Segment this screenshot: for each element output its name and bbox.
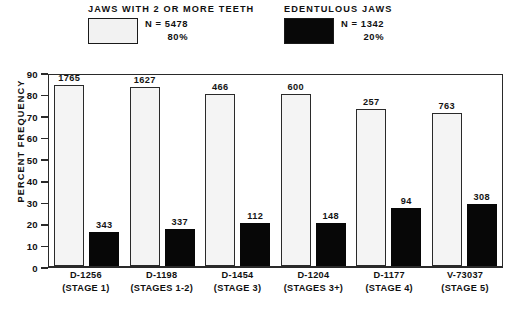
- y-axis-tick-mark: [41, 181, 48, 183]
- x-axis-stage-label: (STAGES 1-2): [124, 283, 200, 293]
- x-axis-stage-label: (STAGE 4): [351, 283, 427, 293]
- bar-value-label: 148: [322, 211, 339, 221]
- bar-group: 466112: [200, 75, 276, 266]
- bar-group: 25794: [351, 75, 427, 266]
- x-axis-stage-label: (STAGE 5): [427, 283, 503, 293]
- plot-area: 1765343162733746611260014825794763308: [48, 74, 503, 268]
- y-axis-tick-label: 90: [27, 68, 38, 79]
- y-axis-tick-mark: [41, 159, 48, 161]
- bar-value-label: 94: [401, 196, 412, 206]
- bar-value-label: 112: [247, 211, 263, 221]
- bar-value-label: 600: [287, 82, 304, 92]
- y-axis-tick-mark: [41, 246, 48, 248]
- x-axis-group-label: D-1198(STAGES 1-2): [124, 270, 200, 293]
- y-axis-tick-mark: [41, 116, 48, 118]
- x-axis-specimen-code: D-1198: [124, 270, 200, 280]
- bar-jaws-with-teeth[interactable]: 466: [205, 94, 235, 266]
- bars-layer: 1765343162733746611260014825794763308: [49, 75, 502, 266]
- bar-value-label: 1765: [58, 73, 80, 83]
- y-axis-tick-mark: [41, 138, 48, 140]
- y-axis-tick-label: 80: [27, 90, 38, 101]
- bar-value-label: 257: [363, 97, 380, 107]
- bar-jaws-with-teeth[interactable]: 257: [356, 109, 386, 266]
- bar-group: 1765343: [49, 75, 125, 266]
- y-axis-tick-mark: [41, 224, 48, 226]
- x-axis-specimen-code: D-1454: [200, 270, 276, 280]
- legend-entry-edentulous-jaws: EDENTULOUS JAWS N = 1342 20%: [284, 4, 392, 44]
- bar-jaws-with-teeth[interactable]: 600: [281, 94, 311, 266]
- bar-jaws-with-teeth[interactable]: 1765: [54, 85, 84, 266]
- bar-edentulous-jaws[interactable]: 94: [391, 208, 421, 266]
- x-axis-group-label: V-73037(STAGE 5): [427, 270, 503, 293]
- x-axis-group-label: D-1204(STAGES 3+): [275, 270, 351, 293]
- y-axis-tick-label: 20: [27, 219, 38, 230]
- y-axis-title: PERCENT FREQUENCY: [16, 76, 26, 206]
- bar-group: 763308: [427, 75, 503, 266]
- x-axis-stage-label: (STAGE 3): [200, 283, 276, 293]
- bar-value-label: 337: [171, 217, 188, 227]
- bar-edentulous-jaws[interactable]: 343: [89, 232, 119, 266]
- y-axis-tick-mark: [41, 95, 48, 97]
- x-axis-specimen-code: V-73037: [427, 270, 503, 280]
- x-axis-stage-label: (STAGES 3+): [275, 283, 351, 293]
- bar-jaws-with-teeth[interactable]: 1627: [130, 87, 160, 266]
- y-axis-tick-mark: [41, 203, 48, 205]
- y-axis-tick-label: 10: [27, 240, 38, 251]
- legend-percent-edentulous-jaws: 20%: [341, 31, 384, 44]
- y-axis-tick-label: 60: [27, 133, 38, 144]
- x-axis-group-label: D-1177(STAGE 4): [351, 270, 427, 293]
- x-axis-specimen-code: D-1204: [275, 270, 351, 280]
- bar-group: 1627337: [125, 75, 201, 266]
- legend-count-jaws-with-teeth: N = 5478: [145, 18, 188, 29]
- solid-black-swatch-icon: [284, 18, 334, 44]
- x-axis-stage-label: (STAGE 1): [48, 283, 124, 293]
- chart-legend: JAWS WITH 2 OR MORE TEETH N = 5478 80% E…: [0, 4, 523, 62]
- bar-value-label: 763: [438, 101, 455, 111]
- bar-edentulous-jaws[interactable]: 308: [467, 204, 497, 267]
- y-axis-tick-label: 40: [27, 176, 38, 187]
- y-axis: 0102030405060708090 PERCENT FREQUENCY: [0, 74, 48, 268]
- legend-entry-jaws-with-teeth: JAWS WITH 2 OR MORE TEETH N = 5478 80%: [88, 4, 254, 44]
- y-axis-tick-mark: [41, 73, 48, 75]
- bar-value-label: 308: [473, 192, 490, 202]
- legend-title-edentulous-jaws: EDENTULOUS JAWS: [284, 4, 392, 14]
- light-stippled-swatch-icon: [88, 18, 138, 44]
- x-axis-specimen-code: D-1177: [351, 270, 427, 280]
- y-axis-tick-mark: [41, 267, 48, 269]
- y-axis-tick-label: 50: [27, 154, 38, 165]
- bar-edentulous-jaws[interactable]: 112: [240, 223, 270, 266]
- legend-percent-jaws-with-teeth: 80%: [145, 31, 188, 44]
- x-axis-group-label: D-1256(STAGE 1): [48, 270, 124, 293]
- x-axis-group-label: D-1454(STAGE 3): [200, 270, 276, 293]
- bar-edentulous-jaws[interactable]: 337: [165, 229, 195, 266]
- x-axis: D-1256(STAGE 1)D-1198(STAGES 1-2)D-1454(…: [48, 270, 503, 293]
- legend-title-jaws-with-teeth: JAWS WITH 2 OR MORE TEETH: [88, 4, 254, 14]
- bar-value-label: 1627: [134, 75, 156, 85]
- legend-count-edentulous-jaws: N = 1342: [341, 18, 384, 29]
- bar-edentulous-jaws[interactable]: 148: [316, 223, 346, 266]
- bar-group: 600148: [276, 75, 352, 266]
- bar-jaws-with-teeth[interactable]: 763: [432, 113, 462, 266]
- y-axis-tick-label: 30: [27, 197, 38, 208]
- y-axis-tick-label: 70: [27, 111, 38, 122]
- bar-value-label: 343: [96, 220, 113, 230]
- y-axis-tick-label: 0: [32, 262, 38, 273]
- x-axis-specimen-code: D-1256: [48, 270, 124, 280]
- bar-value-label: 466: [212, 82, 229, 92]
